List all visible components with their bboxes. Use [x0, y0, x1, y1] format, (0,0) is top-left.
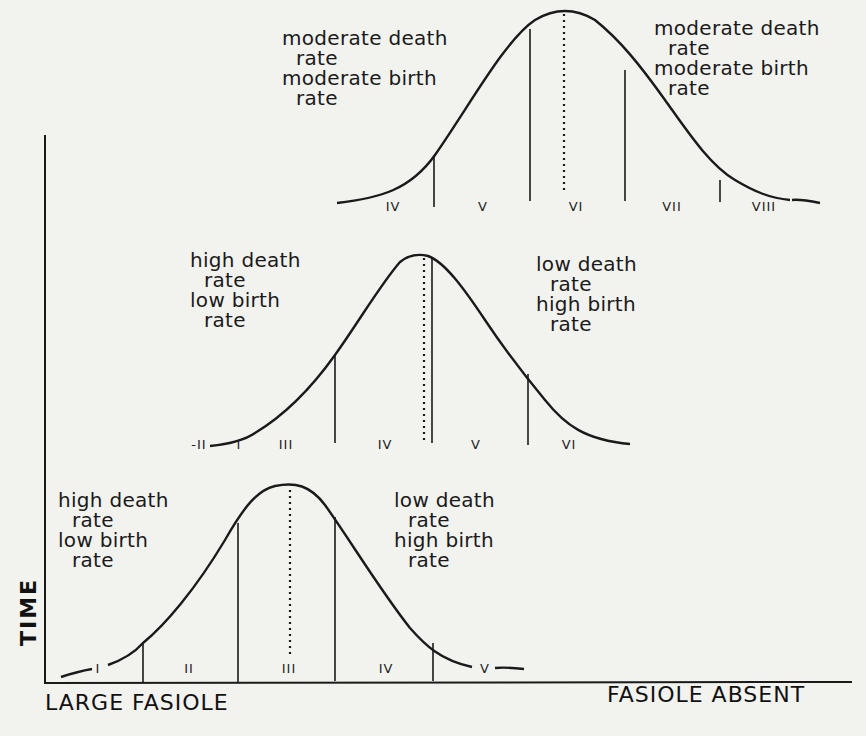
- annotation-line: high birth: [394, 530, 495, 550]
- bottom-left-annotation: high death rate low birth rate: [58, 490, 169, 570]
- top-stage-label: V: [478, 200, 488, 213]
- annotation-line: moderate birth: [654, 58, 820, 78]
- middle-stage-label: III: [279, 438, 294, 451]
- annotation-line: moderate birth: [282, 68, 448, 88]
- bottom-stage-label: II: [184, 662, 194, 675]
- annotation-line: rate: [654, 78, 820, 98]
- annotation-line: high birth: [536, 294, 637, 314]
- middle-left-annotation: high death rate low birth rate: [190, 250, 301, 330]
- bottom-right-annotation: low death rate high birth rate: [394, 490, 495, 570]
- annotation-line: rate: [536, 314, 637, 334]
- y-axis-label: TIME: [16, 578, 41, 646]
- annotation-line: moderate death: [654, 18, 820, 38]
- diagram-canvas: TIME LARGE FASIOLE FASIOLE ABSENT modera…: [0, 0, 866, 736]
- x-axis-label-left: LARGE FASIOLE: [45, 692, 229, 714]
- top-curve-tail: [792, 200, 820, 203]
- evolution-curves-svg: [0, 0, 866, 736]
- bottom-stage-label: I: [96, 662, 101, 675]
- annotation-line: rate: [394, 550, 495, 570]
- annotation-line: rate: [394, 510, 495, 530]
- middle-stage-label: -II: [191, 438, 206, 451]
- annotation-line: rate: [282, 48, 448, 68]
- top-stage-label: IV: [386, 200, 401, 213]
- bottom-curve-start: [61, 669, 92, 677]
- top-right-annotation: moderate death rate moderate birth rate: [654, 18, 820, 98]
- annotation-line: rate: [58, 510, 169, 530]
- annotation-line: low death: [536, 254, 637, 274]
- middle-right-annotation: low death rate high birth rate: [536, 254, 637, 334]
- annotation-line: low birth: [190, 290, 301, 310]
- bottom-stage-label: V: [480, 662, 490, 675]
- annotation-line: rate: [190, 310, 301, 330]
- bottom-stage-label: IV: [379, 662, 394, 675]
- top-stage-label: VI: [569, 200, 584, 213]
- middle-stage-label: V: [471, 438, 481, 451]
- annotation-line: moderate death: [282, 28, 448, 48]
- annotation-line: low birth: [58, 530, 169, 550]
- annotation-line: rate: [536, 274, 637, 294]
- middle-stage-label: VI: [562, 438, 577, 451]
- annotation-line: rate: [58, 550, 169, 570]
- bottom-stage-label: III: [282, 662, 297, 675]
- annotation-line: rate: [654, 38, 820, 58]
- annotation-line: rate: [190, 270, 301, 290]
- bottom-curve-tail: [495, 668, 524, 669]
- annotation-line: high death: [190, 250, 301, 270]
- top-stage-label: VII: [662, 200, 682, 213]
- annotation-line: high death: [58, 490, 169, 510]
- top-left-annotation: moderate death rate moderate birth rate: [282, 28, 448, 108]
- top-stage-label: VIII: [752, 200, 776, 213]
- x-axis-label-right: FASIOLE ABSENT: [607, 684, 805, 706]
- middle-stage-label: I: [237, 438, 242, 451]
- annotation-line: rate: [282, 88, 448, 108]
- annotation-line: low death: [394, 490, 495, 510]
- middle-stage-label: IV: [378, 438, 393, 451]
